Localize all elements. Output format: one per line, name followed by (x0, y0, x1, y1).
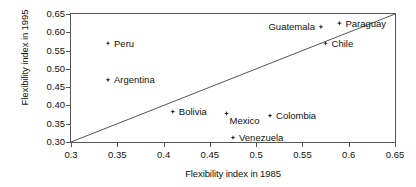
y-axis-tick-label: 0.30 (47, 137, 66, 147)
y-axis-tick-mark (66, 32, 71, 33)
x-axis-tick-label: 0.4 (157, 150, 170, 160)
x-axis-tick-mark (349, 142, 350, 147)
data-point-label: Chile (332, 39, 354, 49)
x-axis-tick-label: 0.3 (64, 150, 77, 160)
x-axis-tick-label: 0.65 (386, 150, 405, 160)
data-point-label: Colombia (276, 111, 316, 121)
x-axis-tick-label: 0.35 (108, 150, 127, 160)
y-axis-tick-label: 0.45 (47, 82, 66, 92)
x-axis-tick-mark (302, 142, 303, 147)
data-point-label: Paraguay (345, 19, 386, 29)
y-axis-tick-label: 0.60 (47, 28, 66, 38)
data-point-label: Peru (114, 39, 134, 49)
plot-area: 0.300.350.400.450.500.550.600.650.30.350… (70, 13, 396, 143)
x-axis-tick-label: 0.6 (342, 150, 355, 160)
x-axis-tick-mark (164, 142, 165, 147)
y-axis-tick-mark (66, 51, 71, 52)
y-axis-tick-mark (66, 87, 71, 88)
data-point-label: Mexico (230, 116, 260, 126)
y-axis-tick-label: 0.35 (47, 119, 66, 129)
y-axis-tick-label: 0.40 (47, 101, 66, 111)
scatter-plot-figure: Flexibility index in 1995 0.300.350.400.… (0, 0, 416, 187)
y-axis-tick-label: 0.65 (47, 9, 66, 19)
y-axis-tick-mark (66, 105, 71, 106)
y-axis-tick-label: 0.50 (47, 64, 66, 74)
x-axis-tick-mark (71, 142, 72, 147)
data-point-label: Venezuela (239, 133, 283, 143)
y-axis-title: Flexibility index in 1995 (19, 0, 30, 138)
x-axis-tick-label: 0.5 (250, 150, 263, 160)
x-axis-tick-label: 0.55 (293, 150, 312, 160)
x-axis-tick-mark (210, 142, 211, 147)
y-axis-tick-mark (66, 69, 71, 70)
data-point-label: Bolivia (179, 107, 207, 117)
data-point-label: Argentina (114, 75, 155, 85)
x-axis-title: Flexibility index in 1985 (70, 168, 396, 179)
x-axis-tick-label: 0.45 (201, 150, 220, 160)
data-point-label: Guatemala (268, 22, 314, 32)
x-axis-tick-mark (395, 142, 396, 147)
y-axis-tick-label: 0.55 (47, 46, 66, 56)
y-axis-tick-mark (66, 14, 71, 15)
y-axis-tick-mark (66, 124, 71, 125)
x-axis-tick-mark (117, 142, 118, 147)
